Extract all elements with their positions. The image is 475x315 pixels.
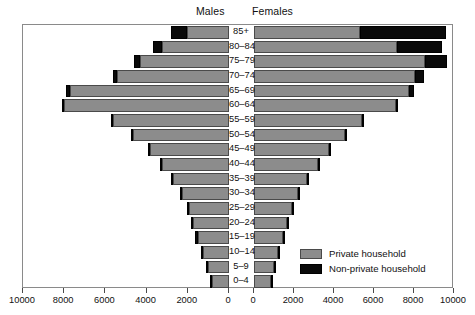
axis-tick-label: 0 — [225, 295, 230, 305]
axis-tick — [63, 288, 64, 293]
female-non-private-household-segment — [318, 158, 320, 171]
female-non-private-household-segment — [345, 129, 347, 142]
female-bar-85- — [254, 26, 446, 39]
female-private-household-segment — [254, 231, 283, 244]
axis-tick-label: 6000 — [363, 295, 384, 305]
age-group-label: 45–49 — [229, 141, 253, 156]
female-bar-70-74 — [254, 70, 424, 83]
males-panel-title: Males — [196, 5, 225, 17]
axis-tick — [333, 288, 334, 293]
female-bar-35-39 — [254, 173, 309, 186]
female-non-private-household-segment — [362, 114, 364, 127]
female-private-household-segment — [254, 70, 415, 83]
axis-tick — [293, 288, 294, 293]
axis-tick — [413, 288, 414, 293]
female-private-household-segment — [254, 158, 318, 171]
female-private-household-segment — [254, 55, 425, 68]
female-bar-15-19 — [254, 231, 285, 244]
female-non-private-household-segment — [425, 55, 447, 68]
female-bar-25-29 — [254, 202, 294, 215]
female-private-household-segment — [254, 275, 271, 288]
female-private-household-segment — [254, 114, 362, 127]
axis-tick — [253, 288, 254, 293]
female-bar-75-79 — [254, 55, 447, 68]
female-private-household-segment — [254, 26, 360, 39]
female-private-household-segment — [254, 202, 292, 215]
female-non-private-household-segment — [274, 261, 276, 274]
female-private-household-segment — [254, 85, 409, 98]
age-group-label: 10–14 — [229, 244, 253, 259]
female-non-private-household-segment — [360, 26, 446, 39]
female-bar-0-4 — [254, 275, 273, 288]
female-non-private-household-segment — [271, 275, 273, 288]
female-bar-5-9 — [254, 261, 276, 274]
axis-tick-label: 10000 — [9, 295, 35, 305]
female-non-private-household-segment — [292, 202, 294, 215]
female-bar-30-34 — [254, 187, 300, 200]
female-bar-60-64 — [254, 99, 398, 112]
female-non-private-household-segment — [287, 217, 289, 230]
axis-tick-label: 2000 — [283, 295, 304, 305]
female-private-household-segment — [254, 41, 397, 54]
axis-tick — [146, 288, 147, 293]
female-private-household-segment — [254, 246, 278, 259]
axis-tick — [228, 288, 229, 293]
female-bar-50-54 — [254, 129, 347, 142]
chart-legend: Private householdNon-private household — [300, 247, 450, 277]
age-group-label: 40–44 — [229, 156, 253, 171]
female-non-private-household-segment — [397, 41, 442, 54]
axis-tick-label: 4000 — [135, 295, 156, 305]
axis-tick — [104, 288, 105, 293]
legend-swatch-private — [300, 249, 322, 259]
axis-tick — [453, 288, 454, 293]
age-group-axis: 85+80–8475–7970–7465–6960–6455–5950–5445… — [229, 24, 253, 288]
age-group-label: 50–54 — [229, 127, 253, 142]
female-non-private-household-segment — [396, 99, 398, 112]
female-non-private-household-segment — [278, 246, 280, 259]
female-private-household-segment — [254, 99, 396, 112]
legend-swatch-nonprivate — [300, 264, 322, 274]
axis-tick-label: 6000 — [94, 295, 115, 305]
female-private-household-segment — [254, 173, 307, 186]
axis-tick-label: 0 — [250, 295, 255, 305]
female-bar-45-49 — [254, 143, 331, 156]
legend-label: Non-private household — [329, 263, 426, 274]
population-pyramid-chart: Males Females 85+80–8475–7970–7465–6960–… — [0, 0, 475, 315]
axis-tick — [373, 288, 374, 293]
male-value-axis: 1000080006000400020000 — [22, 288, 228, 314]
age-group-label: 35–39 — [229, 171, 253, 186]
female-bar-55-59 — [254, 114, 364, 127]
female-non-private-household-segment — [307, 173, 309, 186]
axis-tick — [187, 288, 188, 293]
female-private-household-segment — [254, 217, 287, 230]
age-group-label: 75–79 — [229, 53, 253, 68]
female-private-household-segment — [254, 143, 329, 156]
female-non-private-household-segment — [329, 143, 331, 156]
axis-tick — [22, 288, 23, 293]
legend-item-private: Private household — [300, 247, 450, 260]
age-group-label: 70–74 — [229, 68, 253, 83]
female-value-axis: 0200040006000800010000 — [253, 288, 453, 314]
axis-tick-label: 8000 — [403, 295, 424, 305]
female-bar-10-14 — [254, 246, 280, 259]
axis-tick-label: 10000 — [440, 295, 466, 305]
age-group-label: 30–34 — [229, 185, 253, 200]
female-private-household-segment — [254, 129, 345, 142]
female-non-private-household-segment — [415, 70, 424, 83]
female-non-private-household-segment — [409, 85, 414, 98]
age-group-label: 20–24 — [229, 215, 253, 230]
age-group-label: 15–19 — [229, 229, 253, 244]
age-group-label: 55–59 — [229, 112, 253, 127]
axis-tick-label: 2000 — [176, 295, 197, 305]
age-group-label: 80–84 — [229, 39, 253, 54]
age-group-label: 25–29 — [229, 200, 253, 215]
legend-label: Private household — [329, 248, 406, 259]
female-non-private-household-segment — [283, 231, 285, 244]
legend-item-nonprivate: Non-private household — [300, 262, 450, 275]
female-bar-40-44 — [254, 158, 320, 171]
axis-tick-label: 4000 — [323, 295, 344, 305]
female-bar-80-84 — [254, 41, 442, 54]
female-non-private-household-segment — [298, 187, 300, 200]
female-private-household-segment — [254, 187, 298, 200]
axis-tick-label: 8000 — [53, 295, 74, 305]
